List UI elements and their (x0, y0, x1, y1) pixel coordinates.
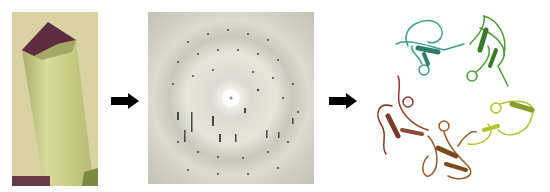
crystal-icon (12, 12, 98, 186)
crystal-photo (12, 12, 98, 186)
protein-structure (368, 6, 548, 186)
arrow-right-icon (329, 93, 357, 109)
diffraction-pattern (148, 12, 314, 184)
arrow-right-icon (111, 93, 139, 109)
protein-ribbon-icon (368, 6, 548, 186)
diffraction-spots (148, 12, 314, 184)
